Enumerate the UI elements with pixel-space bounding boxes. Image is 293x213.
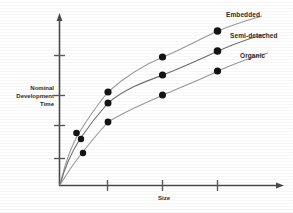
x-axis-label: Size: [139, 195, 189, 201]
data-point-embedded-1: [73, 130, 80, 137]
data-point-embedded-2: [104, 88, 111, 95]
data-point-organic-4: [214, 67, 221, 74]
data-point-embedded-4: [214, 27, 222, 35]
series-label-organic: Organic: [240, 52, 265, 59]
curve-embedded: [60, 16, 262, 185]
data-point-semi-3: [159, 71, 166, 78]
data-point-semi-4: [214, 47, 222, 55]
series-label-semi-detached: Semi-detached: [230, 32, 278, 39]
y-axis-arrow: [57, 13, 63, 21]
data-point-organic-3: [159, 92, 166, 99]
cocomo-effort-chart: Embedded Semi-detached Organic Nominal D…: [0, 0, 293, 213]
series-label-embedded: Embedded: [226, 11, 260, 18]
y-axis-label-line-3: Time: [4, 100, 54, 108]
x-axis-arrow: [276, 183, 284, 189]
data-point-organic-2: [105, 119, 112, 126]
data-point-semi-2: [105, 100, 112, 107]
y-axis-label: Nominal Development Time: [4, 84, 54, 109]
data-point-embedded-3: [159, 53, 166, 60]
data-point-organic-1: [80, 150, 86, 156]
data-point-semi-1: [78, 136, 84, 142]
y-axis-label-line-2: Development: [4, 92, 54, 100]
y-axis-label-line-1: Nominal: [4, 84, 54, 92]
